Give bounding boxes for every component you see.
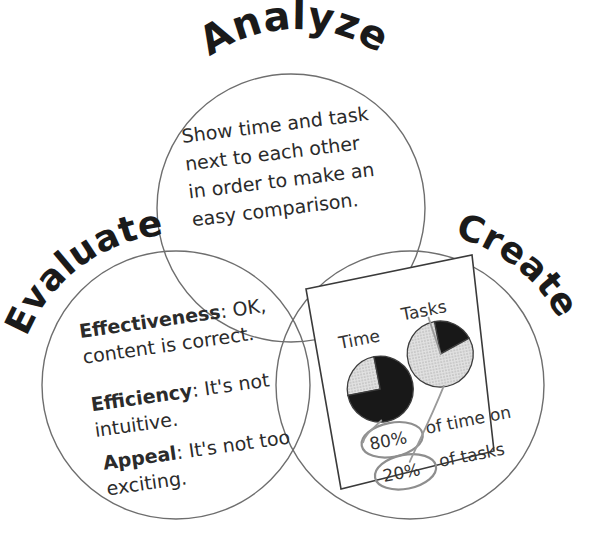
efficiency-rest: : It's not <box>191 368 271 401</box>
venn-diagram-canvas: Analyze Evaluate Create Show time and ta… <box>0 0 594 559</box>
efficiency-head-line: Efficiency: It's not <box>90 368 271 415</box>
evaluate-item-effectiveness: Effectiveness: OK, content is correct. <box>78 294 271 368</box>
efficiency-term: Efficiency <box>90 379 195 415</box>
evaluate-item-appeal: Appeal: It's not too exciting. <box>101 426 295 500</box>
venn-svg: Analyze Evaluate Create Show time and ta… <box>0 0 594 559</box>
sketch-paper-group: Time Tasks <box>306 255 521 497</box>
appeal-rest: : It's not too <box>175 426 291 464</box>
analyze-body-text: Show time and task next to each other in… <box>180 102 380 230</box>
label-analyze-textpath: Analyze <box>191 0 397 64</box>
evaluate-item-efficiency: Efficiency: It's not intuitive. <box>90 368 275 441</box>
label-analyze: Analyze <box>191 0 397 64</box>
effectiveness-rest: : OK, <box>219 294 268 322</box>
